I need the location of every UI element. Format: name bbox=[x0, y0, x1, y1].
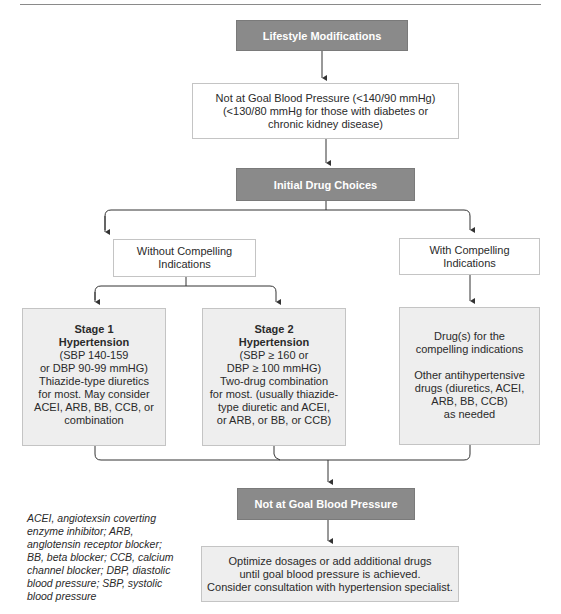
node-line: drugs (diuretics, ACEI, bbox=[415, 382, 524, 395]
node-line: ARB, BB, CCB) bbox=[431, 395, 507, 408]
optimize-dosages-node: Optimize dosages or add additional drugs… bbox=[201, 546, 459, 602]
lifestyle-modifications-node: Lifestyle Modifications bbox=[236, 20, 408, 51]
legend-line: anglotensin receptor blocker; bbox=[27, 538, 177, 551]
node-line: or ARB, or BB, or CCB) bbox=[217, 414, 331, 427]
node-line: (SBP ≥ 160 or bbox=[240, 349, 309, 362]
node-line: Without Compelling bbox=[137, 245, 232, 258]
with-compelling-indications-node: With Compelling Indications bbox=[399, 238, 540, 275]
not-at-goal-final-node: Not at Goal Blood Pressure bbox=[237, 488, 415, 520]
abbreviation-legend: ACEI, angiotexsin coverting enzyme inhib… bbox=[27, 512, 177, 603]
node-line: Drug(s) for the bbox=[434, 330, 505, 343]
not-at-goal-initial-node: Not at Goal Blood Pressure (<140/90 mmHg… bbox=[192, 83, 459, 139]
node-label: Initial Drug Choices bbox=[274, 179, 377, 191]
node-line: With Compelling bbox=[429, 244, 509, 257]
node-title: Stage 1 bbox=[74, 323, 113, 336]
stage1-hypertension-node: Stage 1 Hypertension (SBP 140-159 or DBP… bbox=[22, 308, 166, 446]
node-line: Indications bbox=[158, 258, 211, 271]
legend-line: ACEI, angiotexsin coverting bbox=[27, 512, 177, 525]
node-line: combination bbox=[64, 414, 123, 427]
without-compelling-indications-node: Without Compelling Indications bbox=[113, 239, 256, 277]
node-line: Not at Goal Blood Pressure (<140/90 mmHg… bbox=[216, 92, 436, 105]
legend-line: blood pressure; SBP, systolic bbox=[27, 577, 177, 590]
node-line: Thiazide-type diuretics bbox=[39, 375, 149, 388]
node-line: type diuretic and ACEI, bbox=[218, 401, 330, 414]
node-label: Lifestyle Modifications bbox=[263, 30, 382, 42]
node-line: chronic kidney disease) bbox=[268, 118, 383, 131]
node-line: Indications bbox=[443, 257, 496, 270]
node-line: ACEI, ARB, BB, CCB, or bbox=[34, 401, 154, 414]
node-title: Hypertension bbox=[239, 336, 309, 349]
legend-line: blood pressure bbox=[27, 590, 177, 603]
node-line: (<130/80 mmHg for those with diabetes or bbox=[223, 105, 428, 118]
node-line: DBP ≥ 100 mmHG) bbox=[227, 362, 321, 375]
node-title: Stage 2 bbox=[254, 323, 293, 336]
node-line: Other antihypertensive bbox=[414, 369, 525, 382]
compelling-indications-drugs-node: Drug(s) for the compelling indications O… bbox=[399, 307, 540, 445]
node-line: Two-drug combination bbox=[220, 375, 328, 388]
node-line: for most. (usually thiazide- bbox=[210, 388, 338, 401]
node-line: for most. May consider bbox=[38, 388, 149, 401]
node-line: (SBP 140-159 bbox=[60, 349, 129, 362]
stage2-hypertension-node: Stage 2 Hypertension (SBP ≥ 160 or DBP ≥… bbox=[202, 308, 346, 446]
node-title: Hypertension bbox=[59, 336, 129, 349]
node-line: or DBP 90-99 mmHG) bbox=[40, 362, 148, 375]
node-line: Optimize dosages or add additional drugs bbox=[228, 555, 431, 568]
node-line: Consider consultation with hypertension … bbox=[207, 581, 453, 594]
node-line: as needed bbox=[444, 408, 495, 421]
initial-drug-choices-node: Initial Drug Choices bbox=[236, 168, 415, 201]
node-line: until goal blood pressure is achieved. bbox=[239, 568, 420, 581]
legend-line: enzyme inhibitor; ARB, bbox=[27, 525, 177, 538]
legend-line: BB, beta blocker; CCB, calcium bbox=[27, 551, 177, 564]
node-label: Not at Goal Blood Pressure bbox=[254, 498, 397, 510]
legend-line: channel blocker; DBP, diastolic bbox=[27, 564, 177, 577]
node-line: compelling indications bbox=[416, 343, 524, 356]
